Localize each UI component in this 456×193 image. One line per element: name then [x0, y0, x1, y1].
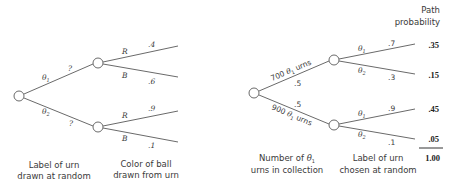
- left-branch-lower-R: [103, 111, 178, 126]
- right-700-prob: .5: [294, 79, 301, 88]
- left-caption-stage2-line1: Color of ball: [120, 159, 171, 169]
- left-lower-R-label: R: [121, 111, 128, 120]
- left-tree: θ1 ? θ2 ? R .4 B .6 R .9 B .1 Label of u…: [14, 40, 179, 181]
- left-theta2-prob: ?: [69, 119, 74, 128]
- left-root-node: [14, 91, 24, 101]
- right-caption-stage2-line1: Label of urn: [353, 153, 404, 163]
- left-upper-B-prob: .6: [148, 77, 155, 86]
- right-branch-lower-theta2: [339, 126, 415, 139]
- right-lower-theta1-label: θ1: [358, 109, 366, 119]
- right-lower-theta1-prob: .9: [388, 104, 395, 113]
- left-caption-stage2-line2: drawn from urn: [113, 170, 179, 180]
- right-upper-theta1-prob: .7: [388, 39, 395, 48]
- right-900-urns-label: 900 θ1 urns: [270, 103, 314, 129]
- right-branch-upper-theta2: [339, 61, 415, 74]
- left-branch-theta2: [24, 98, 93, 126]
- path-probability-value: .45: [428, 104, 439, 114]
- right-upper-theta2-label: θ2: [358, 66, 366, 76]
- left-branch-theta1: [24, 64, 93, 94]
- right-tree: 700 θ1 urns .5 .5 900 θ1 urns θ1 .7 θ2 .…: [249, 5, 443, 175]
- path-probability-value: .35: [428, 40, 439, 50]
- path-probability-header-line2: probability: [395, 17, 440, 27]
- right-root-node: [249, 88, 259, 98]
- right-caption-stage2-line2: chosen at random: [339, 165, 416, 175]
- left-lower-node: [93, 122, 103, 132]
- left-branch-upper-R: [103, 46, 178, 62]
- right-900-prob: .5: [294, 100, 301, 109]
- probability-tree-diagrams: θ1 ? θ2 ? R .4 B .6 R .9 B .1 Label of u…: [0, 0, 456, 193]
- path-probability-value: .05: [428, 134, 439, 144]
- left-upper-R-label: R: [121, 47, 128, 56]
- right-upper-theta2-prob: .3: [388, 73, 395, 82]
- left-branch-upper-B: [103, 64, 178, 77]
- path-probability-total: 1.00: [425, 153, 440, 163]
- left-caption-stage1-line2: drawn at random: [17, 171, 90, 181]
- left-theta1-prob: ?: [68, 64, 73, 73]
- left-lower-R-prob: .9: [148, 104, 155, 113]
- right-branch-lower-theta1: [339, 109, 415, 124]
- right-upper-node: [329, 55, 339, 65]
- right-lower-theta2-prob: .1: [388, 138, 395, 147]
- left-lower-B-label: B: [121, 134, 128, 143]
- left-branch-lower-B: [103, 128, 178, 142]
- left-upper-R-prob: .4: [148, 40, 155, 49]
- path-probability-header-line1: Path: [421, 5, 440, 15]
- left-caption-stage1-line1: Label of urn: [29, 160, 80, 170]
- right-lower-theta2-label: θ2: [358, 130, 366, 140]
- left-upper-B-label: B: [121, 71, 128, 80]
- right-lower-node: [329, 120, 339, 130]
- right-caption-stage1-line1: Number of θ1: [259, 153, 315, 164]
- path-probability-value: .15: [428, 70, 439, 80]
- right-caption-stage1-line2: urns in collection: [251, 165, 323, 175]
- left-upper-node: [93, 58, 103, 68]
- left-theta1-label: θ1: [42, 73, 50, 83]
- right-upper-theta1-label: θ1: [358, 44, 366, 54]
- left-lower-B-prob: .1: [148, 141, 155, 150]
- right-branch-upper-theta1: [339, 44, 415, 59]
